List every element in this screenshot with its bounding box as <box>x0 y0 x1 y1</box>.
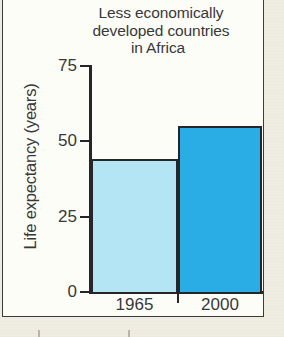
plot-area: 0255075 19652000 <box>3 0 265 318</box>
y-tick-label: 25 <box>25 207 77 227</box>
y-tick-mark <box>80 291 90 293</box>
x-tick-label: 2000 <box>180 295 260 315</box>
bar-2000[interactable] <box>178 126 262 294</box>
y-tick-mark <box>80 216 90 218</box>
y-tick-label: 50 <box>25 131 77 151</box>
y-tick-label: 75 <box>25 56 77 76</box>
x-tick-label: 1965 <box>95 295 175 315</box>
figure-page: Less economically developed countries in… <box>0 0 284 337</box>
bar-1965[interactable] <box>91 159 178 294</box>
chart-panel: Less economically developed countries in… <box>2 0 264 317</box>
scan-artifact-mark <box>128 330 130 337</box>
scan-artifact-mark <box>38 330 40 337</box>
y-tick-label: 0 <box>25 282 77 302</box>
y-tick-mark <box>80 140 90 142</box>
y-tick-mark <box>80 65 90 67</box>
